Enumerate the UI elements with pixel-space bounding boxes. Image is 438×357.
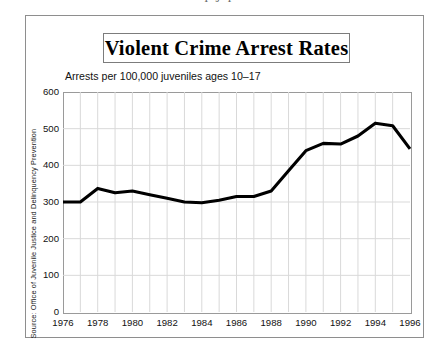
source-note: Source: Office of Juvenile Justice and D… (29, 107, 38, 339)
figure-frame: Violent Crime Arrest Rates Arrests per 1… (25, 15, 424, 338)
clipped-header-text: I J I (0, 0, 438, 3)
plot-wrap: 0100200300400500600 19761978198019821984… (26, 16, 425, 339)
x-axis-tick-label: 1996 (390, 318, 430, 328)
y-axis-tick-label: 600 (26, 87, 59, 97)
chart-line-series (63, 92, 410, 312)
